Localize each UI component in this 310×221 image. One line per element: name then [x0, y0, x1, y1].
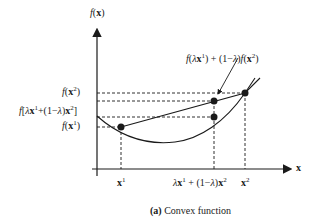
tick-f-x2: f(x2) [62, 87, 80, 97]
y-axis-label: f(x) [90, 8, 104, 18]
point-x2 [242, 90, 249, 97]
point-x1 [118, 124, 125, 131]
tick-f-comb: f[λx1+(1−λ)x2] [19, 106, 77, 116]
convex-curve [97, 78, 255, 143]
x-axis-label: x [296, 163, 301, 173]
tick-x2: x2 [241, 178, 250, 188]
dashed-guides [97, 93, 245, 169]
point-curve [211, 114, 218, 121]
tick-f-x1: f(x1) [62, 121, 80, 131]
tick-comb: λx1 + (1−λ)x2 [173, 178, 227, 188]
point-chord [211, 98, 218, 105]
chord-line [121, 78, 260, 127]
tick-x1: x1 [117, 178, 126, 188]
figure-caption: (a) Convex function [150, 205, 231, 216]
annotation-label: f(λx1) + (1−λ)f(x2) [186, 54, 259, 64]
